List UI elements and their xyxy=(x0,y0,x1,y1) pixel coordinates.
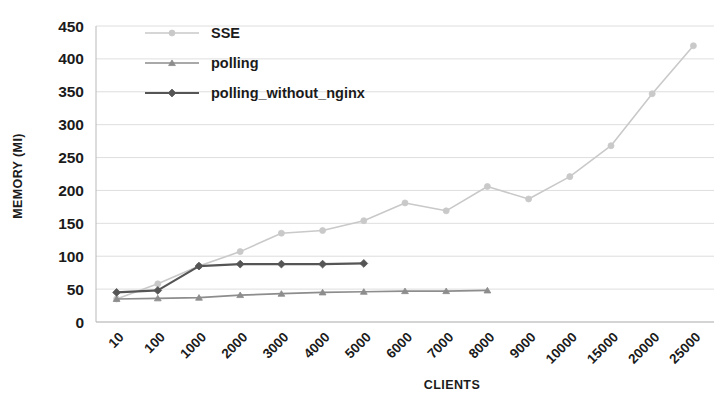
x-tick-label: 25000 xyxy=(666,330,703,367)
x-tick-label: 2000 xyxy=(218,330,250,362)
legend-item-polling-without-nginx[interactable]: polling_without_nginx xyxy=(145,85,365,101)
y-tick-label: 0 xyxy=(75,314,84,331)
x-tick-label: 4000 xyxy=(301,330,333,362)
data-point-marker xyxy=(278,230,284,236)
x-tick-label: 10 xyxy=(105,330,126,351)
y-axis-title: MEMORY (MI) xyxy=(11,133,25,219)
data-point-marker xyxy=(320,228,326,234)
y-tick-label: 50 xyxy=(67,281,84,298)
x-tick-label: 6000 xyxy=(383,330,415,362)
legend-label: SSE xyxy=(211,25,240,41)
chart-canvas: 050100150200250300350400450 101001000200… xyxy=(0,0,725,412)
data-point-marker xyxy=(649,91,655,97)
series-line xyxy=(117,46,694,299)
data-point-marker xyxy=(567,174,573,180)
data-point-marker xyxy=(168,89,176,97)
x-tick-label: 1000 xyxy=(177,330,209,362)
x-axis-title: CLIENTS xyxy=(424,378,480,392)
data-point-marker xyxy=(113,289,121,297)
y-tick-label: 250 xyxy=(58,149,84,166)
data-point-marker xyxy=(319,260,327,268)
memory-vs-clients-chart: 050100150200250300350400450 101001000200… xyxy=(0,0,725,412)
x-tick-label: 9000 xyxy=(507,330,539,362)
chart-legend: SSEpollingpolling_without_nginx xyxy=(145,25,365,101)
gridlines xyxy=(96,26,714,322)
data-point-marker xyxy=(360,260,368,268)
data-point-marker xyxy=(361,218,367,224)
y-tick-label: 200 xyxy=(58,182,84,199)
y-tick-label: 350 xyxy=(58,83,84,100)
data-point-marker xyxy=(690,43,696,49)
data-point-marker xyxy=(484,183,490,189)
x-tick-label: 10000 xyxy=(543,330,580,367)
legend-item-SSE[interactable]: SSE xyxy=(145,25,240,41)
series-polling-without-nginx xyxy=(113,260,368,297)
data-point-marker xyxy=(236,260,244,268)
data-point-marker xyxy=(278,260,286,268)
x-axis-tick-labels: 1010010002000300040005000600070008000900… xyxy=(105,330,703,367)
legend-label: polling_without_nginx xyxy=(211,85,365,101)
x-tick-label: 100 xyxy=(141,330,168,357)
y-tick-label: 100 xyxy=(58,248,84,265)
data-point-marker xyxy=(402,200,408,206)
x-tick-label: 8000 xyxy=(466,330,498,362)
x-tick-label: 20000 xyxy=(625,330,662,367)
y-axis-tick-labels: 050100150200250300350400450 xyxy=(58,18,84,331)
axis-lines xyxy=(96,26,714,322)
y-tick-label: 450 xyxy=(58,18,84,35)
data-point-marker xyxy=(155,281,161,287)
series-line xyxy=(117,290,488,299)
legend-label: polling xyxy=(211,55,259,71)
x-tick-label: 3000 xyxy=(260,330,292,362)
data-point-marker xyxy=(443,208,449,214)
series-SSE xyxy=(114,43,697,302)
x-tick-label: 15000 xyxy=(584,330,621,367)
y-tick-label: 400 xyxy=(58,50,84,67)
data-point-marker xyxy=(169,30,175,36)
y-tick-label: 300 xyxy=(58,116,84,133)
data-point-marker xyxy=(237,249,243,255)
data-point-marker xyxy=(608,143,614,149)
y-tick-label: 150 xyxy=(58,215,84,232)
legend-item-polling[interactable]: polling xyxy=(145,55,259,71)
x-tick-label: 5000 xyxy=(342,330,374,362)
data-series-group xyxy=(113,43,697,302)
x-tick-label: 7000 xyxy=(424,330,456,362)
data-point-marker xyxy=(526,196,532,202)
